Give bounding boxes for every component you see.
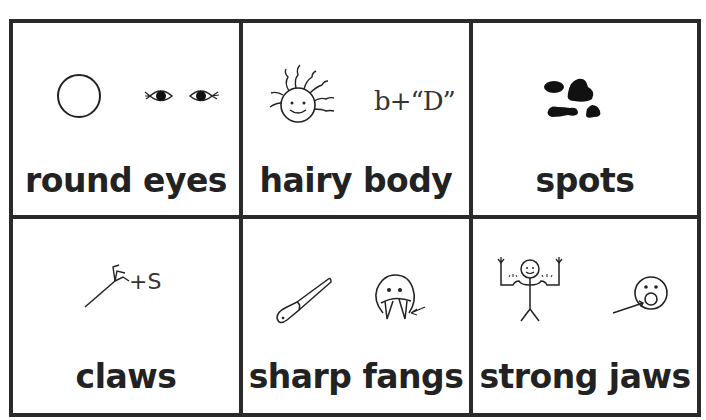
- label-sharp-fangs: sharp fangs: [243, 357, 469, 396]
- cell-spots: spots: [473, 23, 697, 215]
- strong-person-icon: [495, 255, 565, 327]
- knife-icon: [275, 274, 335, 326]
- cell-sharp-fangs: sharp fangs: [243, 219, 469, 413]
- vocabulary-grid: round eyes b+“D” hairy body: [9, 19, 701, 417]
- cell-round-eyes: round eyes: [13, 23, 239, 215]
- label-strong-jaws: strong jaws: [473, 357, 697, 396]
- label-claws: claws: [13, 357, 239, 396]
- cell-claws: +S claws: [13, 219, 239, 413]
- cell-hairy-body: b+“D” hairy body: [243, 23, 469, 215]
- circle-icon: [55, 71, 105, 121]
- claw-notation-text: +S: [129, 269, 161, 294]
- hairy-face-icon: [268, 63, 338, 125]
- label-round-eyes: round eyes: [13, 161, 239, 200]
- label-spots: spots: [473, 161, 697, 200]
- sign-notation-text: b+“D”: [374, 86, 455, 116]
- claw-icon: [83, 261, 133, 309]
- spots-icon: [542, 75, 608, 123]
- label-hairy-body: hairy body: [243, 161, 469, 200]
- fanged-face-icon: [373, 273, 433, 325]
- cell-strong-jaws: strong jaws: [473, 219, 697, 413]
- eyes-icon: [144, 86, 224, 108]
- jaw-face-icon: [611, 275, 673, 319]
